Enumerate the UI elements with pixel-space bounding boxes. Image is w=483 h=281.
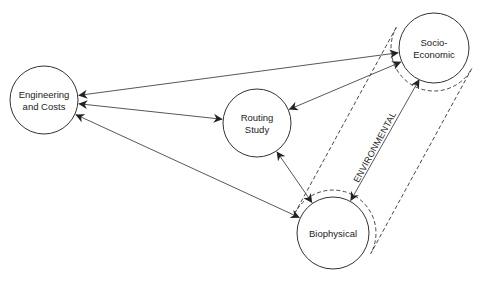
node-socio-label: Economic xyxy=(413,49,455,60)
environmental-label: ENVIRONMENTAL xyxy=(351,110,398,185)
node-socio-label: Socio- xyxy=(421,37,448,48)
edge-routing-socio xyxy=(289,62,401,109)
edge-routing-bio xyxy=(277,152,312,203)
node-routing-label: Routing xyxy=(241,112,274,123)
edge-engineering-routing xyxy=(79,104,222,119)
node-engineering-label: and Costs xyxy=(23,101,66,112)
relationship-diagram: Engineeringand CostsRoutingStudySocio-Ec… xyxy=(0,0,483,281)
node-bio-label: Biophysical xyxy=(309,228,357,239)
nodes: Engineeringand CostsRoutingStudySocio-Ec… xyxy=(10,13,469,269)
node-engineering-label: Engineering xyxy=(19,89,70,100)
edge-engineering-socio xyxy=(79,53,399,96)
node-engineering: Engineeringand Costs xyxy=(10,66,78,134)
node-bio: Biophysical xyxy=(297,197,369,269)
node-routing-label: Study xyxy=(245,124,270,135)
node-routing: RoutingStudy xyxy=(223,89,291,157)
node-socio: Socio-Economic xyxy=(399,13,469,83)
